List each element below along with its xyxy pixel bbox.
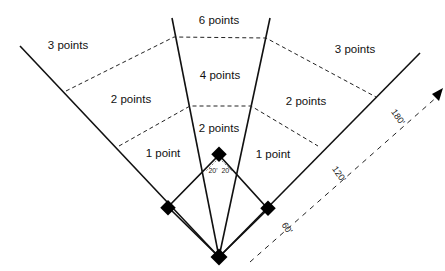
angle-label-right: 20': [221, 167, 230, 174]
infield-diamond: [168, 155, 268, 257]
zone-right-mid: 2 points: [286, 95, 326, 107]
zone-left-far: 3 points: [48, 39, 88, 51]
distance-arrow-icon: [432, 88, 443, 101]
zone-center-far: 6 points: [199, 14, 239, 26]
center-right-line: [219, 18, 270, 257]
left-foul-line: [20, 46, 219, 257]
zone-left-mid: 2 points: [111, 93, 151, 105]
zone-right-far: 3 points: [335, 43, 375, 55]
angle-label-left: 20': [208, 167, 217, 174]
zone-left-near: 1 point: [146, 147, 181, 159]
zone-right-near: 1 point: [256, 148, 291, 160]
outer-zone-boundary: [66, 37, 376, 97]
center-left-line: [172, 18, 219, 257]
zone-center-mid: 4 points: [200, 69, 240, 81]
zone-center-near: 2 points: [199, 122, 239, 134]
